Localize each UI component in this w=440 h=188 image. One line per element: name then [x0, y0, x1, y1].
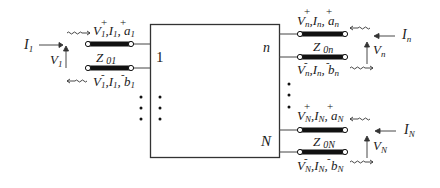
reflected-wave-arrow-icon — [350, 66, 373, 70]
incident-wave-arrow-icon — [350, 26, 370, 30]
current-arrow-icon — [375, 129, 396, 134]
port-label-1: 1 — [156, 49, 164, 65]
impedance-label-1: Z01 — [96, 50, 116, 66]
plus-sign: + — [304, 100, 310, 112]
voltage-label-1: V1 — [50, 52, 62, 69]
port-1: Z01 V1,I1, a1 + + V1,I1, b1 - - I1 — [23, 16, 150, 90]
incident-wave-arrow-icon — [67, 31, 90, 35]
port-N: Z0N VN,IN, aN + + VN,IN, bN - - IN VN — [279, 100, 416, 174]
reflected-wave-arrow-icon — [350, 160, 373, 164]
minus-sign: - — [327, 152, 331, 164]
plus-sign: + — [326, 5, 332, 17]
voltage-arrow-icon — [365, 136, 370, 158]
minus-sign: - — [304, 56, 308, 68]
current-label-N: IN — [403, 122, 416, 139]
port-n: Z0n Vn,In, an + + Vn,In, bn - - In Vn — [279, 5, 412, 78]
minus-sign: - — [304, 152, 308, 164]
impedance-label-n: Z0n — [313, 39, 333, 55]
n-port-network-diagram: 1 n N Z01 V1,I1, a1 + + — [0, 0, 440, 188]
left-ellipsis-dots — [140, 96, 143, 121]
current-arrow-icon — [39, 43, 63, 48]
minus-sign: - — [101, 68, 105, 80]
minus-sign: - — [326, 56, 330, 68]
current-label-1: I1 — [23, 37, 33, 54]
current-arrow-icon — [374, 34, 395, 39]
inner-ellipsis-dots — [159, 96, 162, 121]
minus-sign: - — [121, 68, 125, 80]
plus-sign: + — [101, 16, 107, 28]
impedance-label-N: Z0N — [313, 134, 336, 150]
plus-sign: + — [120, 16, 126, 28]
voltage-label-N: VN — [373, 138, 388, 155]
port-label-N: N — [260, 133, 272, 149]
current-label-n: In — [401, 27, 412, 44]
incident-wave-label-1: V1,I1, a1 — [93, 23, 135, 39]
voltage-label-n: Vn — [373, 42, 386, 59]
right-ellipsis-dots — [288, 83, 291, 109]
port-label-n: n — [263, 40, 270, 55]
plus-sign: + — [304, 5, 310, 17]
reflected-wave-label-1: V1,I1, b1 — [93, 74, 135, 90]
voltage-arrow-icon — [64, 46, 69, 68]
voltage-arrow-icon — [365, 42, 370, 64]
incident-wave-arrow-icon — [350, 117, 370, 121]
plus-sign: + — [327, 100, 333, 112]
reflected-wave-arrow-icon — [67, 79, 87, 83]
